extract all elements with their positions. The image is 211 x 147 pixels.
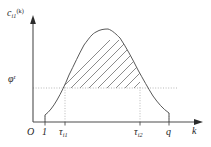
origin-label: O [27,127,34,137]
x-tick-label-tau-i1: τi1 [59,127,68,138]
y-axis-arrowhead [30,15,36,24]
y-axis-label-base: c [7,7,11,18]
bell-curve-plot [0,0,211,147]
x-tick-label-q: q [166,127,171,137]
threshold-label: φr [8,74,16,84]
x-tick-label-tau-i1-subscript: i1 [63,131,68,138]
x-tick-label-one: 1 [42,127,47,137]
x-tick-label-tau-i2-subscript: i2 [138,131,143,138]
threshold-label-superscript: r [14,73,16,80]
x-axis-label: k [192,126,196,136]
distribution-curve [45,29,169,115]
x-tick-label-one-base: 1 [42,126,47,137]
x-tick-label-q-base: q [166,126,171,137]
y-axis-label: ci1(k) [7,8,24,19]
hatched-region [30,40,211,120]
threshold-label-base: φ [8,73,14,84]
y-axis-label-superscript: (k) [17,7,24,14]
y-axis-label-subscript: i1 [12,12,17,19]
figure-container: ci1(k) φr O 1 τi1 τi2 q k [0,0,211,147]
x-tick-label-tau-i2: τi2 [134,127,143,138]
